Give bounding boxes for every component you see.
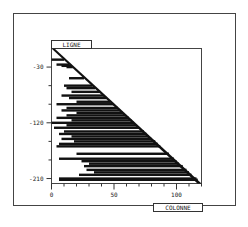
bar <box>72 135 150 137</box>
bar <box>77 153 170 155</box>
x-axis-title: COLONNE <box>154 204 203 212</box>
bar <box>64 84 93 86</box>
bar <box>67 87 96 89</box>
bar <box>54 127 139 129</box>
y-axis-title: LIGNE <box>52 41 92 49</box>
bar <box>59 158 174 160</box>
y-axis-title-text: LIGNE <box>62 41 80 48</box>
bar <box>57 103 115 105</box>
bar <box>62 109 121 111</box>
y-tick-label: -210 <box>29 175 44 182</box>
bar <box>69 97 107 99</box>
x-tick-label: 100 <box>171 191 182 198</box>
x-axis: 050100 <box>50 184 202 198</box>
bar <box>67 114 126 116</box>
bar <box>52 58 65 60</box>
bar <box>79 174 192 176</box>
bar <box>87 169 187 171</box>
bar <box>77 101 111 103</box>
bar <box>72 91 101 93</box>
bar <box>57 117 130 119</box>
bar <box>67 107 118 109</box>
bar <box>57 145 161 147</box>
bar <box>64 130 144 132</box>
bar <box>84 165 183 167</box>
bar <box>69 77 84 79</box>
x-tick-label: 0 <box>50 191 54 198</box>
y-tick-label: -30 <box>33 63 44 70</box>
bar <box>82 160 177 162</box>
chart-canvas: -30-120-210 050100 LIGNE COLONNE <box>0 0 248 227</box>
y-tick-label: -120 <box>29 119 44 126</box>
bar <box>89 162 179 164</box>
x-axis-title-text: COLONNE <box>165 204 191 211</box>
bar <box>94 171 189 173</box>
y-axis: -30-120-210 <box>29 63 51 181</box>
bar <box>59 143 158 145</box>
outer-border <box>14 14 236 206</box>
bar <box>67 124 137 126</box>
x-tick-label: 50 <box>110 191 118 198</box>
bar <box>59 133 147 135</box>
bar <box>74 140 155 142</box>
bar <box>52 122 135 124</box>
bar <box>62 94 105 96</box>
bar <box>62 138 152 140</box>
bar <box>77 112 123 114</box>
bar <box>72 119 132 121</box>
bar <box>59 179 198 181</box>
